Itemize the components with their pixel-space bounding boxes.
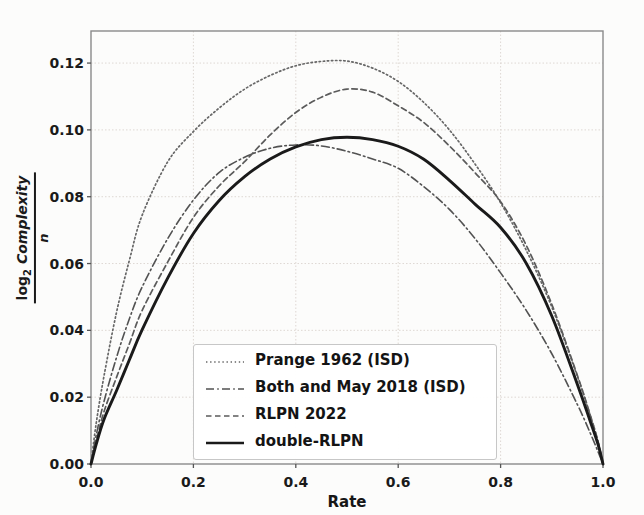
- legend-item-prange-1962-isd: Prange 1962 (ISD): [204, 353, 486, 370]
- x-tick-label-0.0: 0.0: [79, 474, 104, 490]
- x-tick-label-0.4: 0.4: [283, 474, 308, 490]
- legend-item-both-and-may-2018-isd: Both and May 2018 (ISD): [204, 380, 486, 397]
- legend-label: Both and May 2018 (ISD): [255, 380, 466, 397]
- y-axis-label-fraction: log2 Complexity n: [15, 173, 51, 304]
- y-axis-label-denominator: n: [37, 233, 51, 242]
- legend-label: RLPN 2022: [255, 407, 347, 424]
- legend-label: Prange 1962 (ISD): [255, 353, 410, 370]
- y-tick-label-0.08: 0.08: [49, 189, 84, 205]
- y-axis-label-numerator: log2 Complexity: [15, 173, 33, 304]
- figure: 0.00.20.40.60.81.00.000.020.040.060.080.…: [0, 0, 644, 515]
- legend-item-double-rlpn: double-RLPN: [204, 434, 486, 451]
- x-tick-label-0.2: 0.2: [181, 474, 206, 490]
- legend-line-sample-dashed: [204, 409, 246, 423]
- y-tick-label-0.02: 0.02: [49, 389, 84, 405]
- legend-item-rlpn-2022: RLPN 2022: [204, 407, 486, 424]
- legend-label: double-RLPN: [255, 434, 364, 451]
- x-tick-label-0.8: 0.8: [488, 474, 513, 490]
- legend-line-sample-dashdot: [204, 382, 246, 396]
- x-axis-label: Rate: [291, 493, 403, 511]
- legend: Prange 1962 (ISD)Both and May 2018 (ISD)…: [193, 344, 497, 460]
- y-tick-label-0.10: 0.10: [49, 122, 84, 138]
- legend-line-sample-dotted: [204, 355, 246, 369]
- y-tick-label-0.12: 0.12: [49, 55, 84, 71]
- x-tick-label-0.6: 0.6: [386, 474, 411, 490]
- legend-line-sample-solid: [204, 436, 246, 450]
- y-tick-label-0.06: 0.06: [49, 256, 84, 272]
- x-tick-label-1.0: 1.0: [591, 474, 616, 490]
- y-tick-label-0.04: 0.04: [49, 322, 84, 338]
- y-tick-label-0.00: 0.00: [49, 456, 84, 472]
